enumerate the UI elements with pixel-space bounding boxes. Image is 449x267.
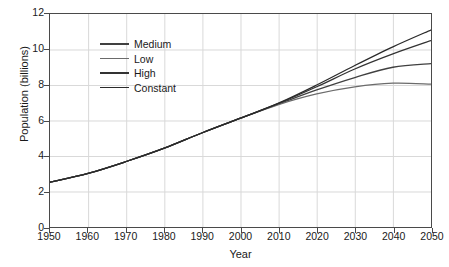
x-tick-mark xyxy=(241,228,242,233)
x-tick-mark xyxy=(394,228,395,233)
x-tick-mark xyxy=(164,228,165,233)
legend-line-swatch xyxy=(100,52,129,66)
x-axis-title: Year xyxy=(49,248,432,260)
plot-area: MediumLowHighConstant xyxy=(49,13,432,228)
x-tick-mark xyxy=(49,228,50,233)
legend-item-label: Low xyxy=(134,54,153,65)
legend-item-constant[interactable]: Constant xyxy=(100,81,220,96)
legend-line-swatch xyxy=(100,81,129,95)
legend-item-high[interactable]: High xyxy=(100,66,220,81)
legend-item-label: High xyxy=(134,68,156,79)
population-projection-chart: Population (billions) 024681012 19501960… xyxy=(0,0,449,267)
x-tick-mark xyxy=(279,228,280,233)
x-tick-mark xyxy=(87,228,88,233)
legend: MediumLowHighConstant xyxy=(100,37,220,95)
x-tick-label: 2050 xyxy=(409,231,449,242)
x-tick-mark xyxy=(355,228,356,233)
legend-item-low[interactable]: Low xyxy=(100,52,220,67)
y-tick-label: 6 xyxy=(0,115,52,126)
legend-line-swatch xyxy=(100,37,129,51)
legend-item-label: Constant xyxy=(134,83,176,94)
x-tick-mark xyxy=(317,228,318,233)
legend-item-medium[interactable]: Medium xyxy=(100,37,220,52)
x-tick-mark xyxy=(202,228,203,233)
y-tick-label: 8 xyxy=(0,79,52,90)
x-tick-mark xyxy=(126,228,127,233)
legend-item-label: Medium xyxy=(134,39,171,50)
legend-line-swatch xyxy=(100,66,129,80)
x-tick-mark xyxy=(432,228,433,233)
